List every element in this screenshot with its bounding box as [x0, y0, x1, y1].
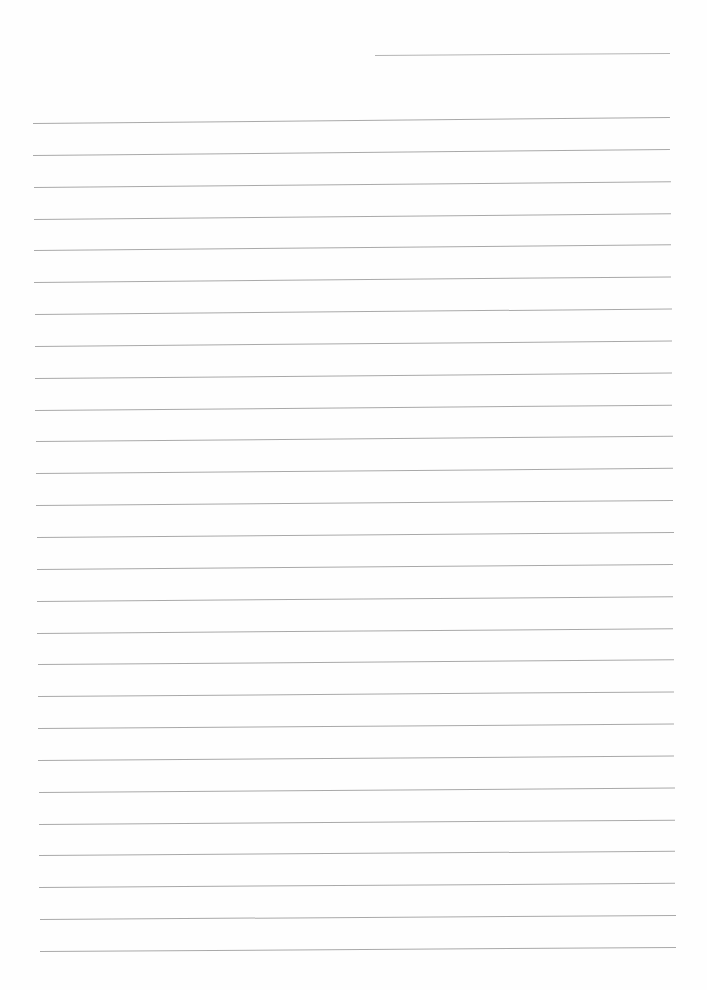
ruled-line	[38, 692, 674, 698]
ruled-line	[34, 277, 671, 284]
ruled-line	[33, 149, 670, 156]
ruled-line	[39, 851, 675, 856]
ruled-line	[36, 500, 673, 506]
ruled-line	[39, 787, 675, 792]
ruled-line	[34, 181, 671, 188]
ruled-line	[39, 883, 675, 888]
ruled-line	[35, 372, 672, 378]
ruled-line	[35, 309, 672, 316]
lined-paper-page	[0, 0, 707, 990]
ruled-line	[39, 819, 675, 824]
ruled-line	[40, 947, 676, 952]
ruled-line	[34, 213, 671, 220]
ruled-line	[35, 340, 672, 346]
ruled-line	[36, 532, 673, 538]
ruled-line	[35, 404, 672, 410]
ruled-line	[37, 596, 673, 602]
ruled-line	[37, 628, 673, 634]
header-rule-line	[375, 53, 670, 56]
ruled-line	[36, 468, 673, 474]
ruled-line	[37, 564, 673, 570]
ruled-line	[36, 436, 673, 442]
ruled-line	[34, 245, 671, 252]
ruled-line	[38, 755, 674, 760]
ruled-line	[40, 915, 676, 920]
ruled-line	[38, 724, 674, 730]
ruled-line	[38, 660, 674, 666]
ruled-line	[33, 117, 670, 124]
